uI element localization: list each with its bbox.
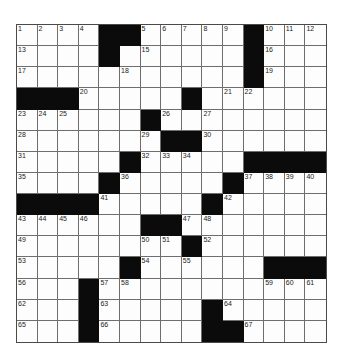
grid-cell[interactable]: 67 (244, 321, 265, 342)
grid-cell[interactable] (161, 257, 182, 278)
grid-cell[interactable]: 31 (17, 152, 38, 173)
grid-cell[interactable]: 59 (264, 279, 285, 300)
grid-cell[interactable] (223, 67, 244, 88)
grid-cell[interactable] (285, 215, 306, 236)
grid-cell[interactable]: 27 (202, 110, 223, 131)
grid-cell[interactable] (202, 173, 223, 194)
grid-cell[interactable] (120, 110, 141, 131)
grid-cell[interactable] (182, 173, 203, 194)
grid-cell[interactable] (99, 67, 120, 88)
grid-cell[interactable]: 37 (244, 173, 265, 194)
grid-cell[interactable] (58, 67, 79, 88)
grid-cell[interactable] (285, 110, 306, 131)
grid-cell[interactable] (58, 300, 79, 321)
grid-cell[interactable]: 47 (182, 215, 203, 236)
grid-cell[interactable] (223, 236, 244, 257)
grid-cell[interactable] (223, 279, 244, 300)
grid-cell[interactable] (141, 321, 162, 342)
grid-cell[interactable] (58, 46, 79, 67)
grid-cell[interactable] (99, 88, 120, 109)
grid-cell[interactable]: 4 (79, 25, 100, 46)
grid-cell[interactable] (58, 257, 79, 278)
grid-cell[interactable] (141, 88, 162, 109)
grid-cell[interactable] (58, 173, 79, 194)
grid-cell[interactable] (244, 300, 265, 321)
grid-cell[interactable] (38, 321, 59, 342)
grid-cell[interactable]: 52 (202, 236, 223, 257)
grid-cell[interactable]: 61 (305, 279, 326, 300)
grid-cell[interactable] (264, 215, 285, 236)
grid-cell[interactable] (58, 152, 79, 173)
grid-cell[interactable]: 60 (285, 279, 306, 300)
grid-cell[interactable] (264, 321, 285, 342)
grid-cell[interactable]: 55 (182, 257, 203, 278)
grid-cell[interactable] (202, 257, 223, 278)
grid-cell[interactable]: 35 (17, 173, 38, 194)
grid-cell[interactable]: 57 (99, 279, 120, 300)
grid-cell[interactable] (223, 46, 244, 67)
grid-cell[interactable]: 64 (223, 300, 244, 321)
grid-cell[interactable]: 62 (17, 300, 38, 321)
grid-cell[interactable] (285, 321, 306, 342)
grid-cell[interactable]: 32 (141, 152, 162, 173)
grid-cell[interactable] (202, 152, 223, 173)
grid-cell[interactable]: 26 (161, 110, 182, 131)
grid-cell[interactable] (285, 194, 306, 215)
grid-cell[interactable] (38, 257, 59, 278)
grid-cell[interactable] (244, 194, 265, 215)
grid-cell[interactable]: 30 (202, 131, 223, 152)
grid-cell[interactable] (305, 67, 326, 88)
grid-cell[interactable] (244, 236, 265, 257)
grid-cell[interactable]: 25 (58, 110, 79, 131)
grid-cell[interactable]: 18 (120, 67, 141, 88)
grid-cell[interactable]: 19 (264, 67, 285, 88)
grid-cell[interactable] (244, 257, 265, 278)
grid-cell[interactable] (99, 257, 120, 278)
grid-cell[interactable]: 38 (264, 173, 285, 194)
grid-cell[interactable] (120, 131, 141, 152)
grid-cell[interactable] (58, 236, 79, 257)
grid-cell[interactable] (161, 321, 182, 342)
grid-cell[interactable] (161, 279, 182, 300)
grid-cell[interactable] (285, 88, 306, 109)
grid-cell[interactable]: 33 (161, 152, 182, 173)
grid-cell[interactable] (141, 67, 162, 88)
grid-cell[interactable] (79, 173, 100, 194)
grid-cell[interactable] (120, 215, 141, 236)
grid-cell[interactable] (38, 152, 59, 173)
grid-cell[interactable] (79, 152, 100, 173)
grid-cell[interactable] (305, 300, 326, 321)
grid-cell[interactable]: 40 (305, 173, 326, 194)
grid-cell[interactable]: 28 (17, 131, 38, 152)
grid-cell[interactable] (305, 236, 326, 257)
grid-cell[interactable] (223, 215, 244, 236)
grid-cell[interactable] (99, 131, 120, 152)
grid-cell[interactable]: 65 (17, 321, 38, 342)
grid-cell[interactable] (58, 131, 79, 152)
grid-cell[interactable]: 15 (141, 46, 162, 67)
grid-cell[interactable]: 12 (305, 25, 326, 46)
grid-cell[interactable] (161, 67, 182, 88)
grid-cell[interactable] (141, 194, 162, 215)
grid-cell[interactable] (202, 279, 223, 300)
grid-cell[interactable]: 44 (38, 215, 59, 236)
grid-cell[interactable]: 41 (99, 194, 120, 215)
grid-cell[interactable]: 63 (99, 300, 120, 321)
grid-cell[interactable] (161, 300, 182, 321)
grid-cell[interactable] (38, 279, 59, 300)
grid-cell[interactable] (285, 46, 306, 67)
grid-cell[interactable]: 51 (161, 236, 182, 257)
grid-cell[interactable] (223, 257, 244, 278)
grid-cell[interactable] (182, 46, 203, 67)
grid-cell[interactable] (141, 173, 162, 194)
grid-cell[interactable] (305, 194, 326, 215)
grid-cell[interactable] (285, 67, 306, 88)
grid-cell[interactable]: 16 (264, 46, 285, 67)
grid-cell[interactable] (305, 88, 326, 109)
grid-cell[interactable]: 53 (17, 257, 38, 278)
grid-cell[interactable] (120, 194, 141, 215)
grid-cell[interactable] (182, 300, 203, 321)
grid-cell[interactable] (244, 279, 265, 300)
grid-cell[interactable] (264, 236, 285, 257)
grid-cell[interactable]: 2 (38, 25, 59, 46)
